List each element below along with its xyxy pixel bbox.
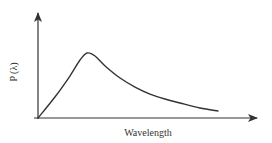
- distribution-curve: [38, 53, 218, 118]
- wavelength-distribution-chart: Wavelength P (λ): [0, 0, 272, 143]
- x-axis-label: Wavelength: [124, 127, 172, 138]
- y-axis-label: P (λ): [8, 62, 20, 81]
